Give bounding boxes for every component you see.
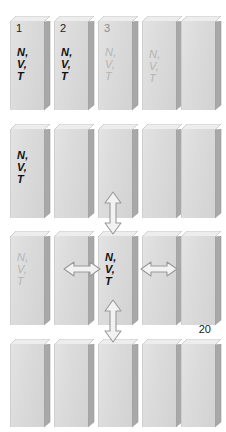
nvt-line-t: T — [17, 70, 29, 82]
box-side-face — [215, 236, 221, 326]
nvt-line-t: T — [105, 70, 117, 82]
box-side-face — [215, 21, 221, 111]
cell-index-label: 1 — [16, 23, 22, 34]
box-front-face — [142, 344, 176, 427]
box-side-face — [132, 129, 138, 219]
nvt-line-v: V, — [17, 161, 29, 173]
box-front-face — [181, 344, 215, 427]
cell-nvt-label: N, V, T — [61, 46, 73, 82]
nvt-line-v: V, — [17, 263, 29, 275]
nvt-line-v: V, — [105, 263, 117, 275]
nvt-line-n: N, — [105, 46, 117, 58]
nvt-line-v: V, — [105, 58, 117, 70]
nvt-line-n: N, — [105, 251, 117, 263]
box-side-face — [44, 21, 50, 111]
box-side-face — [44, 344, 50, 428]
nvt-line-t: T — [17, 173, 29, 185]
box-front-face — [181, 129, 215, 218]
nvt-line-v: V, — [61, 58, 73, 70]
nvt-line-n: N, — [17, 149, 29, 161]
box-side-face — [132, 236, 138, 326]
nvt-line-n: N, — [61, 46, 73, 58]
box-front-face — [54, 236, 88, 325]
arrow-horizontal-left-icon — [63, 260, 101, 278]
box-front-face — [98, 344, 132, 427]
box-side-face — [88, 344, 94, 428]
box-side-face — [44, 129, 50, 219]
box-side-face — [88, 129, 94, 219]
nvt-line-n: N, — [17, 46, 29, 58]
cell-index-label: 3 — [104, 23, 110, 34]
box-front-face — [142, 129, 176, 218]
cell-nvt-label: N, V, T — [17, 46, 29, 82]
box-side-face — [88, 21, 94, 111]
nvt-line-n: N, — [149, 48, 161, 60]
cell-nvt-label: N, V, T — [105, 251, 117, 287]
cell-nvt-label: N, V, T — [149, 48, 161, 84]
nvt-line-v: V, — [17, 58, 29, 70]
ensemble-figure: 1 N, V, T 2 N, V, T — [0, 0, 226, 432]
box-side-face — [215, 344, 221, 428]
box-side-face — [88, 236, 94, 326]
cell-nvt-label: N, V, T — [105, 46, 117, 82]
box-side-face — [44, 236, 50, 326]
nvt-line-t: T — [105, 275, 117, 287]
cell-nvt-label: N, V, T — [17, 149, 29, 185]
arrow-vertical-lower-icon — [103, 299, 123, 343]
box-front-face — [54, 129, 88, 218]
nvt-line-n: N, — [17, 251, 29, 263]
cell-nvt-label: N, V, T — [17, 251, 29, 287]
cell-count-label: 20 — [199, 324, 211, 335]
arrow-vertical-upper-icon — [103, 191, 123, 235]
nvt-line-t: T — [17, 275, 29, 287]
box-front-face — [181, 236, 215, 325]
box-side-face — [132, 21, 138, 111]
cell-index-label: 2 — [60, 23, 66, 34]
box-front-face — [142, 236, 176, 325]
box-front-face — [54, 344, 88, 427]
box-side-face — [215, 129, 221, 219]
box-front-face — [10, 344, 44, 427]
nvt-line-t: T — [61, 70, 73, 82]
nvt-line-t: T — [149, 72, 161, 84]
nvt-line-v: V, — [149, 60, 161, 72]
box-front-face — [181, 21, 215, 110]
arrow-horizontal-right-icon — [140, 260, 178, 278]
box-side-face — [132, 344, 138, 428]
